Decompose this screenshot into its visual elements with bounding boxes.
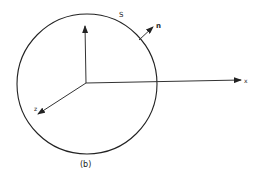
- x-axis-label: x: [244, 77, 248, 84]
- normal-label: n: [156, 22, 161, 30]
- z-axis-arrow: [38, 83, 86, 114]
- normal-vector-arrow: [139, 27, 153, 40]
- surface-label: S: [119, 11, 124, 19]
- figure-caption: (b): [80, 160, 91, 169]
- sphere-diagram: S n x z (b): [0, 0, 259, 187]
- sphere-surface: [17, 14, 157, 154]
- y-axis-arrow: [85, 26, 86, 83]
- z-axis-label: z: [34, 105, 37, 112]
- x-axis-arrow: [86, 80, 241, 83]
